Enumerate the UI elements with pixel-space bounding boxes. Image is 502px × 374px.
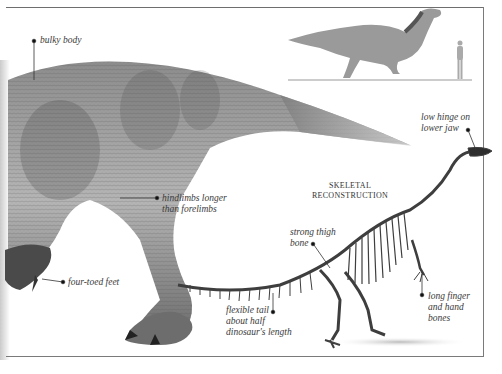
label-bulky-body: bulky body <box>40 35 81 46</box>
skeletal-reconstruction-title: SKELETAL RECONSTRUCTION <box>305 181 395 201</box>
scale-dinosaur-illustration <box>288 8 472 80</box>
label-hindlimbs: hindlimbs longer than forelimbs <box>162 193 227 215</box>
human-silhouette-icon <box>457 41 463 80</box>
label-four-toed-feet: four-toed feet <box>68 277 119 288</box>
book-page: bulky body hindlimbs longer than forelim… <box>0 0 502 374</box>
label-low-hinge: low hinge on lower jaw <box>421 112 470 134</box>
label-flexible-tail: flexible tail about half dinosaur's leng… <box>226 305 292 338</box>
skeleton-shadow <box>330 337 470 347</box>
label-long-finger: long finger and hand bones <box>428 291 470 324</box>
label-strong-thigh: strong thigh bone <box>290 227 336 249</box>
